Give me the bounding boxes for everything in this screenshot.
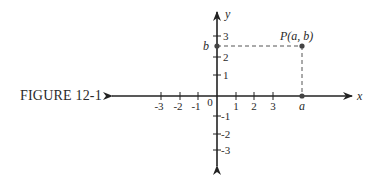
x-axis-label: x	[356, 89, 363, 103]
x-tick-label: -1	[191, 100, 200, 112]
y-axis-label: y	[224, 7, 231, 21]
y-tick-label: 2	[223, 51, 229, 63]
y-tick-label: 1	[223, 69, 229, 81]
x-tick-label: -2	[173, 100, 182, 112]
y-tick-label: -1	[221, 110, 230, 122]
point-b	[214, 43, 219, 48]
y-tick-label: -3	[221, 144, 231, 156]
x-tick-label: 2	[251, 100, 257, 112]
y-tick-label: 3	[223, 30, 229, 42]
x-tick-label: 3	[270, 100, 276, 112]
point-p	[299, 43, 304, 48]
x-tick-label: 1	[233, 100, 239, 112]
coordinate-plane: -3 -2 -1 1 2 3 0 3 2 1 -1 -2 -3 x y P(a,…	[0, 0, 384, 175]
point-a-label: a	[299, 99, 305, 113]
y-tick-label: -2	[221, 128, 230, 140]
point-b-label: b	[203, 39, 209, 53]
point-a	[299, 93, 304, 98]
x-tick-label: -3	[154, 100, 164, 112]
point-p-label: P(a, b)	[279, 29, 313, 43]
origin-label: 0	[207, 96, 213, 108]
